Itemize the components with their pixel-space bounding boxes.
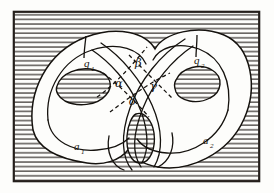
label-a2: a [203, 134, 209, 146]
label-beta: β [134, 56, 142, 70]
label-gamma: γ [150, 79, 157, 93]
center-hole-group [127, 113, 155, 163]
center-handle-hole [127, 113, 155, 163]
label-q1: q [84, 57, 90, 69]
figure-container: q 1 q 2 a 1 a 2 α β γ δ [0, 0, 274, 193]
label-q1-subscript: 1 [91, 65, 95, 73]
label-alpha: α [115, 76, 123, 90]
label-q2: q [194, 54, 200, 66]
label-a1-subscript: 1 [81, 148, 85, 156]
label-a1: a [74, 140, 80, 152]
genus-two-surface-figure: q 1 q 2 a 1 a 2 α β γ δ [0, 0, 274, 193]
label-q2-subscript: 2 [201, 62, 205, 70]
label-a2-subscript: 2 [210, 142, 214, 150]
label-delta: δ [129, 94, 136, 108]
